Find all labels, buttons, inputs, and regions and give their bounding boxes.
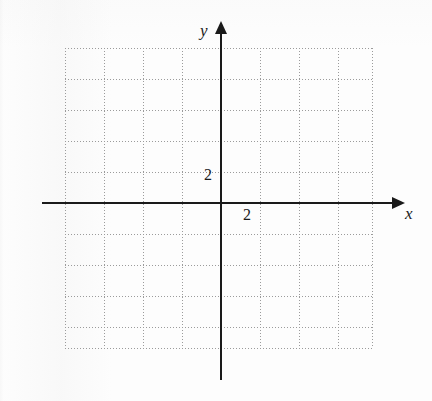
grid-area [65,48,372,348]
grid-line-vertical [104,48,105,348]
grid-line-horizontal [65,172,372,173]
grid-line-vertical [143,48,144,348]
y-axis-label: y [200,22,208,39]
y-axis-arrow-icon [215,21,227,34]
grid-line-horizontal [65,48,372,49]
x-axis-label: x [405,205,413,222]
grid-line-horizontal [65,296,372,297]
grid-line-horizontal [65,234,372,235]
grid-line-vertical [65,48,66,348]
grid-line-horizontal [65,327,372,328]
grid-line-horizontal [65,79,372,80]
figure-canvas: y x 2 2 [0,0,432,401]
grid-line-vertical [338,48,339,348]
grid-line-horizontal [65,110,372,111]
x-axis-line [42,202,394,204]
x-axis-tick-label-2: 2 [243,207,251,223]
grid-line-vertical [260,48,261,348]
grid-line-vertical [182,48,183,348]
y-axis-tick-label-2: 2 [204,167,212,183]
grid-line-horizontal [65,141,372,142]
grid-line-vertical [372,48,373,348]
y-axis-line [220,34,222,380]
grid-line-vertical [299,48,300,348]
grid-line-horizontal [65,265,372,266]
x-axis-arrow-icon [392,197,405,209]
grid-line-horizontal [65,348,372,349]
